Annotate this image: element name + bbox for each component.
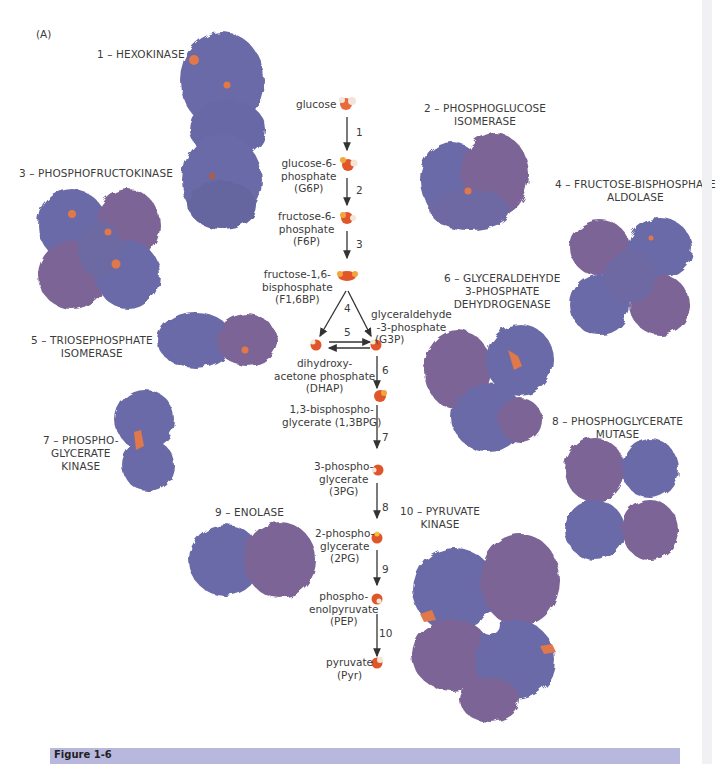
dhap-molecule-icon [311,340,322,351]
step-number-10: 10 [379,627,392,639]
phosphofructokinase-structure [38,189,160,309]
figure-caption-label: Figure 1-6 [54,749,112,760]
metabolite-dhap: dihydroxy-acetone phosphate(DHAP) [274,357,375,395]
metabolite-f16bp: fructose-1,6-bisphosphate(F1,6BP) [262,268,333,306]
metabolite-2pg: 2-phospho-glycerate(2PG) [315,527,374,565]
enzyme-label-pyruvate-kinase: 10 – PYRUVATEKINASE [400,505,480,531]
page-edge [702,0,712,764]
metabolite-1-3-bpg: 1,3-bisphospho-glycerate (1,3BPG) [282,403,381,428]
enzyme-label-enolase: 9 – ENOLASE [215,506,284,519]
step-number-4: 4 [344,302,351,314]
metabolite-g6p: glucose-6-phosphate(G6P) [281,157,337,195]
step-number-7: 7 [382,431,389,443]
g6p-molecule-icon [340,157,358,171]
step-number-1: 1 [356,126,363,138]
phosphoglucose-isomerase-structure [420,133,529,230]
panel-label: (A) [36,28,51,40]
glucose-molecule-icon [339,97,356,110]
step-number-8: 8 [382,501,389,513]
step-number-6: 6 [382,364,389,376]
aldolase-structure [570,218,692,335]
step-number-5: 5 [344,326,351,338]
metabolite-pyruvate: pyruvate(Pyr) [326,656,373,681]
enolase-structure [189,522,316,598]
pyruvate-kinase-structure [412,534,560,722]
enzyme-label-phosphofructokinase: 3 – PHOSPHOFRUCTOKINASE [19,167,173,180]
enzyme-label-hexokinase: 1 – HEXOKINASE [97,48,185,61]
step-number-3: 3 [356,238,363,250]
active-site-icon [189,55,199,65]
bpg13-molecule-icon [374,390,387,402]
metabolite-pep: phospho-enolpyruvate(PEP) [309,590,379,628]
enzyme-label-aldolase: 4 – FRUCTOSE-BISPHOSPHATEALDOLASE [555,178,716,204]
enzyme-label-phosphoglycerate-mutase: 8 – PHOSPHOGLYCERATEMUTASE [552,415,683,441]
pyruvate-molecule-icon [372,657,384,669]
figure-caption-bar: Figure 1-6 [50,748,680,764]
step-number-9: 9 [382,563,389,575]
enzyme-label-gapdh: 6 – GLYCERALDEHYDE3-PHOSPHATEDEHYDROGENA… [444,272,560,311]
enzyme-label-phosphoglucose-isomerase: 2 – PHOSPHOGLUCOSEISOMERASE [424,102,546,128]
f16bp-molecule-icon [337,271,358,281]
f6p-molecule-icon [340,212,356,224]
metabolite-glucose: glucose [296,98,336,111]
metabolite-g3p: glyceraldehyde-3-phosphate(G3P) [371,308,452,346]
metabolite-f6p: fructose-6-phosphate(F6P) [278,210,335,248]
step-number-2: 2 [356,184,363,196]
triosephosphate-isomerase-structure [157,312,277,368]
phosphoglycerate-mutase-structure [565,438,678,560]
enzyme-label-triosephosphate-isomerase: 5 – TRIOSEPHOSPHATEISOMERASE [31,334,153,360]
phosphoglycerate-kinase-structure [115,390,175,491]
enzyme-label-phosphoglycerate-kinase: 7 – PHOSPHO-GLYCERATEKINASE [43,434,119,473]
metabolite-3pg: 3-phospho-glycerate(3PG) [314,460,373,498]
